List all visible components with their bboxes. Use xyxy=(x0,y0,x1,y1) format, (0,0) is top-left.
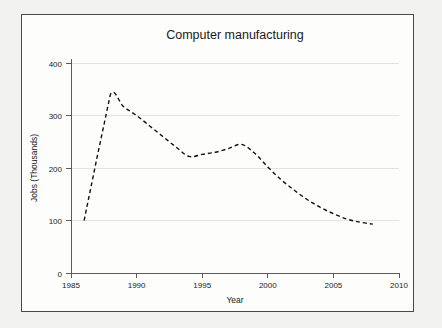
data-series-line xyxy=(84,92,373,224)
figure-frame: 400 300 200 100 0 Jobs (Thousands) 1985 … xyxy=(21,14,414,312)
x-tick-label-2005: 2005 xyxy=(325,281,343,290)
y-axis-title: Jobs (Thousands) xyxy=(29,134,39,202)
line-chart: 400 300 200 100 0 Jobs (Thousands) 1985 … xyxy=(22,15,413,311)
x-axis: 1985 1990 1995 2000 2005 2010 Year xyxy=(62,273,408,305)
y-tick-label-100: 100 xyxy=(49,217,63,226)
x-axis-title: Year xyxy=(226,295,243,305)
x-tick-label-1995: 1995 xyxy=(193,281,211,290)
y-tick-label-200: 200 xyxy=(49,165,63,174)
y-axis: 400 300 200 100 0 Jobs (Thousands) xyxy=(29,59,71,279)
y-tick-label-0: 0 xyxy=(58,270,63,279)
x-tick-label-2000: 2000 xyxy=(259,281,277,290)
gridlines xyxy=(71,63,399,273)
x-tick-label-2010: 2010 xyxy=(390,281,408,290)
x-tick-label-1985: 1985 xyxy=(62,281,80,290)
y-tick-label-400: 400 xyxy=(49,60,63,69)
chart-title: Computer manufacturing xyxy=(166,28,304,42)
x-tick-label-1990: 1990 xyxy=(128,281,146,290)
y-tick-label-300: 300 xyxy=(49,112,63,121)
